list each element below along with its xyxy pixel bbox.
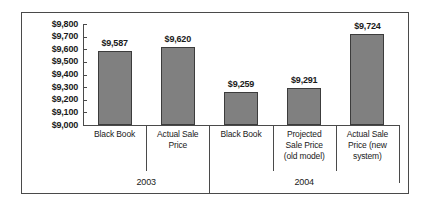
category-cell: Actual SalePrice (newsystem)	[336, 125, 399, 169]
category-label-line: (old model)	[275, 151, 334, 162]
y-axis-tick-labels: $9,800$9,700$9,600$9,500$9,400$9,300$9,2…	[26, 21, 78, 125]
bar-slot: $9,259	[209, 24, 272, 125]
bar-slot: $9,587	[83, 24, 146, 125]
category-divider	[399, 125, 400, 183]
plot-area: $9,587$9,620$9,259$9,291$9,724	[83, 24, 400, 125]
bar[interactable]	[161, 47, 195, 125]
bar-value-label: $9,259	[228, 79, 254, 89]
category-label-line: Price (new	[338, 140, 397, 151]
category-label-line: Projected	[275, 129, 334, 140]
y-axis-tick-label: $9,200	[26, 95, 78, 104]
y-axis-tick-label: $9,700	[26, 32, 78, 41]
category-cell: Black Book	[83, 125, 146, 169]
group-label-2004: 2004	[209, 177, 399, 188]
category-label-line: Price	[148, 140, 207, 151]
category-label-line: Actual Sale	[148, 129, 207, 140]
category-label-line: Black Book	[85, 129, 144, 140]
y-axis-tick-label: $9,800	[26, 20, 78, 29]
chart-frame: $9,800$9,700$9,600$9,500$9,400$9,300$9,2…	[21, 12, 409, 194]
bar-value-label: $9,620	[165, 34, 191, 44]
bar[interactable]	[350, 34, 384, 125]
bar[interactable]	[98, 51, 132, 125]
bar[interactable]	[224, 92, 258, 125]
group-label-2003: 2003	[83, 177, 209, 188]
y-axis-tick-label: $9,100	[26, 108, 78, 117]
category-cell: Actual SalePrice	[146, 125, 209, 169]
y-axis-tick-label: $9,500	[26, 57, 78, 66]
category-axis-table: Black BookActual SalePriceBlack BookProj…	[83, 125, 400, 193]
bar-value-label: $9,587	[101, 38, 127, 48]
y-axis-tick-label: $9,300	[26, 83, 78, 92]
bar-slot: $9,724	[336, 24, 399, 125]
bar-value-label: $9,291	[291, 75, 317, 85]
bar[interactable]	[287, 88, 321, 125]
bar-slot: $9,620	[146, 24, 209, 125]
y-axis-tick-label: $9,400	[26, 70, 78, 79]
category-label-line: Actual Sale	[338, 129, 397, 140]
category-label-line: Black Book	[211, 129, 270, 140]
category-label-line: system)	[338, 151, 397, 162]
y-axis-tick-label: $9,000	[26, 121, 78, 130]
bar-value-label: $9,724	[354, 21, 380, 31]
category-label-line: Sale Price	[275, 140, 334, 151]
y-axis-tick-label: $9,600	[26, 45, 78, 54]
category-cell: ProjectedSale Price(old model)	[273, 125, 336, 169]
bar-slot: $9,291	[273, 24, 336, 125]
category-cell: Black Book	[209, 125, 272, 169]
